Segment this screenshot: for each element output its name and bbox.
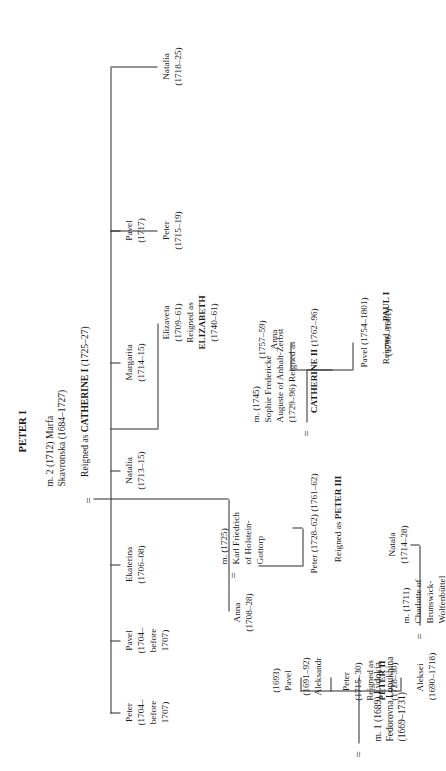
peter-iii-equals: = bbox=[300, 430, 311, 436]
child-peter-1715-19-name: Peter bbox=[160, 199, 170, 261]
elizaveta-lead bbox=[157, 323, 158, 429]
aleksei-spouse-line3: Brunswick- bbox=[424, 513, 434, 623]
child-elizaveta-reign-dates: (1740–61) bbox=[208, 287, 218, 357]
root-title: PETER I bbox=[16, 391, 28, 471]
marriage-2-reigned-prefix: Reigned as bbox=[78, 432, 89, 477]
anna-1757-lead bbox=[290, 342, 291, 370]
m1-peter-ii-reigned: Reigned as bbox=[364, 645, 374, 715]
child-peter-1704-dates2: before bbox=[147, 681, 157, 743]
marriage-2-sibling-bus bbox=[110, 67, 111, 713]
child-elizaveta-dates: (1709–61) bbox=[172, 287, 182, 357]
stub-pavel-1704 bbox=[110, 640, 120, 641]
m1-peter-ii-reign-dates: (1728–30) bbox=[388, 649, 398, 713]
child-natalia-1713-name: Natalia bbox=[123, 437, 133, 503]
stub-margarita bbox=[110, 362, 120, 363]
stub-ekaterina bbox=[110, 564, 120, 565]
natala-name: Natala bbox=[386, 513, 396, 575]
anna-to-peteriii-drop bbox=[258, 565, 302, 566]
paul-i-lead bbox=[352, 342, 353, 370]
anna-spouse-line1: m. (1725) bbox=[218, 454, 228, 564]
peter-iii-name-dates: Peter (1728–62) (1761–62) bbox=[308, 453, 318, 593]
child-margarita-name: Margarita bbox=[123, 327, 133, 397]
paul-i-line3: (1796–1801) bbox=[382, 272, 392, 392]
m1-aleksandr-dates: (1691–92) bbox=[300, 637, 310, 715]
paul-i-line1: Pavel (1754–1801) bbox=[358, 272, 368, 392]
aleksei-spouse-line2: Charlotte of bbox=[412, 513, 422, 623]
peteriii-bus bbox=[302, 528, 303, 566]
child-pavel-1704-dates: (1704– bbox=[135, 609, 145, 671]
stub-peter-1704 bbox=[110, 712, 120, 713]
marriage-2-catherine-i: CATHERINE I bbox=[78, 368, 89, 432]
catherine-ii-line5: CATHERINE II (1762–96) bbox=[298, 202, 329, 422]
stub-elizaveta bbox=[110, 428, 157, 429]
child-pavel-1704-name: Pavel bbox=[123, 609, 133, 671]
anna-1708-dates: (1708–28) bbox=[243, 581, 253, 643]
catherine-ii-title: CATHERINE II bbox=[308, 348, 318, 412]
stub-peter-1715-19 bbox=[110, 230, 157, 231]
stub-natalia-1718 bbox=[110, 66, 157, 67]
catherine-ii-reign-dates: (1762–96) bbox=[308, 308, 318, 349]
child-elizaveta-name: Elizaveta bbox=[160, 287, 170, 357]
child-ekaterina-dates: (1706–08) bbox=[135, 529, 145, 599]
stub-natalia-1713 bbox=[110, 470, 120, 471]
child-natalia-1718-dates: (1718–25) bbox=[172, 33, 182, 99]
child-natalia-1713-dates: (1713–15) bbox=[135, 437, 145, 503]
child-pavel-1704-dates2: before bbox=[147, 609, 157, 671]
natala-stub bbox=[410, 544, 419, 545]
child-pavel-1704-dates3: 1707) bbox=[159, 609, 169, 671]
anna-1708-riser bbox=[110, 498, 228, 499]
child-elizaveta-title: ELIZABETH bbox=[196, 282, 206, 362]
m1-aleksei-dates: (1690–1718) bbox=[426, 637, 436, 715]
m1-peter-ii-dates: (1715–30) bbox=[352, 649, 362, 713]
anna-spouse-line3: of Holstein- bbox=[242, 454, 252, 564]
anna-spouse-line2: Karl Friedrich bbox=[230, 454, 240, 564]
marriage-2-equals: = bbox=[82, 497, 93, 503]
peter-iii-reigned: Reigned as PETER III bbox=[322, 443, 353, 603]
child-peter-1715-19-dates: (1715–19) bbox=[172, 199, 182, 261]
m1-aleksei-name: Aleksei bbox=[414, 649, 424, 705]
marriage-2-line3: Reigned as CATHERINE I (1725–27) bbox=[68, 286, 100, 486]
marriage-2-reign-dates: (1725–27) bbox=[78, 326, 89, 368]
child-peter-1704-name: Peter bbox=[123, 681, 133, 743]
peteriii-stub bbox=[292, 527, 302, 528]
peteriii-children-spine bbox=[290, 369, 352, 370]
child-margarita-dates: (1714–15) bbox=[135, 327, 145, 397]
catherine-ii-line4: (1729–96) Reigned as bbox=[286, 212, 296, 422]
m1-child-aleksandr-lead bbox=[330, 677, 331, 691]
peter-iii-title: PETER III bbox=[332, 475, 342, 519]
child-natalia-1718-name: Natalia bbox=[160, 33, 170, 99]
anna-spouse-line4: Gottorp bbox=[254, 454, 264, 564]
m1-child-aleksei-lead bbox=[400, 677, 401, 691]
marriage-2-line1: m. 2 (1712) Marfa bbox=[44, 316, 55, 486]
marriage-1-equals: = bbox=[352, 751, 363, 757]
m1-aleksandr-name: Aleksandr bbox=[312, 637, 322, 715]
aleksei-child-rule bbox=[419, 545, 420, 625]
marriage-2-drop bbox=[93, 498, 110, 499]
anna-1757-name: Anna bbox=[268, 307, 278, 371]
peter-iii-reigned-prefix: Reigned as bbox=[332, 519, 342, 562]
m1-peter-ii-title: PETER II bbox=[376, 645, 386, 715]
m1-peter-ii-name: Peter bbox=[340, 653, 350, 709]
aleksei-spouse-line4: Wolfenbüttel bbox=[436, 513, 446, 623]
child-ekaterina-name: Ekaterina bbox=[123, 529, 133, 599]
anna-1757-dates: (1757–59) bbox=[256, 307, 266, 371]
m1-pavel-dates: (1693) bbox=[270, 655, 280, 705]
natala-dates: (1714–28) bbox=[398, 513, 408, 575]
anna-1708-name: Anna bbox=[231, 581, 241, 643]
child-peter-1704-dates3: 1707) bbox=[159, 681, 169, 743]
anna-1708-equals: = bbox=[227, 572, 238, 578]
child-elizaveta-reigned: Reigned as bbox=[184, 287, 194, 357]
m1-pavel-name: Pavel bbox=[282, 655, 292, 705]
child-peter-1704-dates: (1704– bbox=[135, 681, 145, 743]
marriage-2-line2: Skavronska (1684–1727) bbox=[56, 306, 67, 486]
aleksei-equals: = bbox=[413, 633, 424, 639]
